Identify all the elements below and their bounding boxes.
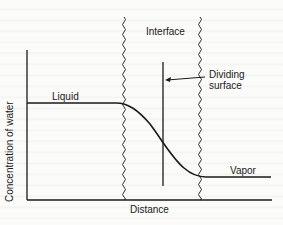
- dividing-surface-label: Dividing surface: [209, 69, 245, 91]
- x-axis-label: Distance: [130, 205, 169, 215]
- interface-diagram: [0, 0, 283, 225]
- dividing-surface-label-line1: Dividing: [209, 69, 245, 80]
- dividing-surface-label-line2: surface: [209, 80, 245, 91]
- right-interface-boundary: [199, 17, 202, 200]
- interface-label: Interface: [146, 27, 185, 37]
- liquid-label: Liquid: [52, 92, 79, 102]
- y-axis-label: Concentration of water: [5, 101, 15, 202]
- arrowhead-icon: [165, 77, 171, 82]
- left-interface-boundary: [123, 17, 126, 200]
- vapor-label: Vapor: [230, 166, 256, 176]
- dividing-surface-arrow: [167, 77, 205, 80]
